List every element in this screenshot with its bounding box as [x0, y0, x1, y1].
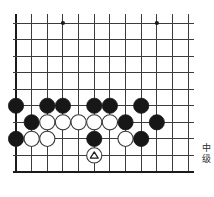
level-label: 中 级	[199, 143, 213, 165]
level-label-char-2: 级	[199, 154, 213, 165]
white-stone	[40, 115, 55, 130]
black-stone-disc	[24, 115, 39, 130]
black-stone	[102, 98, 117, 113]
white-stone-disc	[55, 115, 70, 130]
black-stone	[24, 115, 39, 130]
black-stone-disc	[8, 131, 23, 146]
level-label-char-1: 中	[199, 143, 213, 154]
black-stone	[8, 98, 23, 113]
black-stone	[134, 131, 149, 146]
black-stone	[40, 98, 55, 113]
black-stone	[87, 98, 102, 113]
black-stone	[87, 131, 102, 146]
black-stone-disc	[40, 98, 55, 113]
black-stone-disc	[8, 98, 23, 113]
black-stone	[134, 98, 149, 113]
white-stone-disc	[118, 131, 133, 146]
go-board-diagram	[0, 0, 214, 197]
white-stone-disc	[24, 131, 39, 146]
white-stone	[55, 115, 70, 130]
star-point	[155, 21, 159, 25]
white-stone	[118, 131, 133, 146]
white-stone-disc	[87, 115, 102, 130]
white-stone-disc	[71, 115, 86, 130]
black-stone	[8, 131, 23, 146]
white-stone	[102, 115, 117, 130]
white-stone-disc	[40, 115, 55, 130]
black-stone-disc	[134, 98, 149, 113]
black-stone-disc	[149, 115, 164, 130]
star-point	[61, 21, 65, 25]
black-stone-disc	[102, 98, 117, 113]
white-stone-disc	[40, 131, 55, 146]
go-board-svg	[0, 0, 214, 197]
white-stone	[87, 148, 102, 163]
white-stone	[24, 131, 39, 146]
black-stone	[149, 115, 164, 130]
black-stone-disc	[118, 115, 133, 130]
black-stone	[55, 98, 70, 113]
screenshot-root: 中 级	[0, 0, 214, 197]
white-stone	[87, 115, 102, 130]
white-stone-disc	[102, 115, 117, 130]
black-stone-disc	[87, 98, 102, 113]
black-stone-disc	[87, 131, 102, 146]
white-stone	[71, 115, 86, 130]
black-stone	[118, 115, 133, 130]
black-stone-disc	[134, 131, 149, 146]
black-stone-disc	[55, 98, 70, 113]
white-stone-disc	[87, 148, 102, 163]
white-stone	[40, 131, 55, 146]
board-grid	[13, 14, 194, 172]
